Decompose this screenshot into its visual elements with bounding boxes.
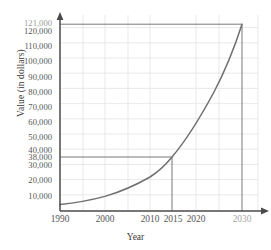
- y-tick-label-10000: 10,000: [0, 192, 52, 201]
- chart-figure: 121,000 120,000 110,000 100,000 90,000 8…: [0, 0, 271, 250]
- reference-lines: [60, 24, 242, 211]
- y-tick-label-70000: 70,000: [0, 103, 52, 112]
- y-tick-label-110000: 110,000: [0, 42, 52, 51]
- y-tick-label-80000: 80,000: [0, 88, 52, 97]
- y-axis-title: Value (in dollars): [16, 18, 26, 148]
- y-tick-label-20000: 20,000: [0, 176, 52, 185]
- x-tick-label-2000: 2000: [87, 214, 123, 224]
- x-tick-label-2030: 2030: [224, 214, 260, 224]
- y-tick-label-30000: 30,000: [0, 161, 52, 170]
- y-tick-label-60000: 60,000: [0, 118, 52, 127]
- y-tick-label-100000: 100,000: [0, 57, 52, 66]
- value-growth-curve: [60, 24, 242, 204]
- x-tick-label-2020: 2020: [178, 214, 214, 224]
- x-tick-label-1990: 1990: [42, 214, 78, 224]
- y-tick-label-120000: 120,000: [0, 27, 52, 36]
- y-tick-label-90000: 90,000: [0, 73, 52, 82]
- y-tick-label-50000: 50,000: [0, 133, 52, 142]
- vertical-gridlines: [83, 15, 258, 211]
- x-axis-title: Year: [0, 232, 271, 242]
- y-axis: [57, 12, 64, 211]
